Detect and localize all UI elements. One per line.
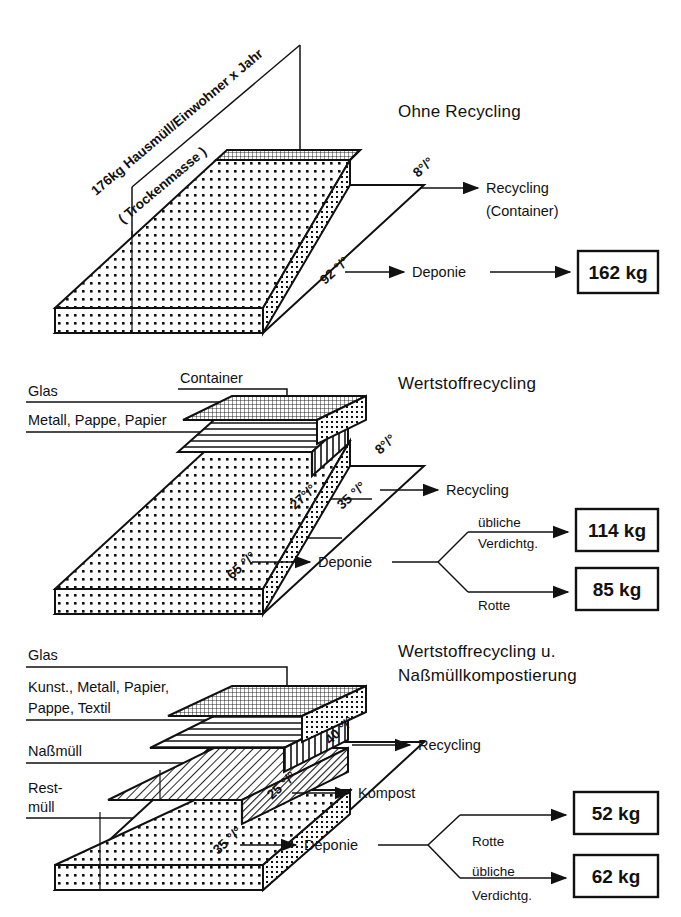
block-cap-p1	[216, 150, 360, 160]
via-label-62-line2: Verdichtg.	[472, 888, 532, 903]
layer-label-restmuell-p3-line2: müll	[28, 799, 55, 815]
result-value-62: 62 kg	[592, 866, 641, 887]
via-label-52-line1: Rotte	[472, 834, 504, 849]
panel-wertstoffrecycling: Wertstoffrecycling Glas Metall, Pappe, P…	[26, 370, 658, 614]
via-label-114-line2: Verdichtg.	[478, 536, 538, 551]
block-front-p3	[55, 865, 263, 890]
flow-deponie-label-p2: Deponie	[318, 554, 372, 570]
panel-2-title: Wertstoffrecycling	[398, 374, 536, 393]
block-front-p2	[55, 589, 263, 614]
layer-label-glas-p2: Glas	[28, 383, 58, 399]
layer-label-kunst-p3-line2: Pappe, Textil	[28, 700, 111, 716]
panel-3-title-line2: Naßmüllkompostierung	[398, 666, 577, 685]
flow-recycling-label-p3: Recycling	[418, 737, 481, 753]
panel-ohne-recycling: Ohne Recycling 176kg Hausmüll/Einwohner …	[55, 45, 658, 333]
layer-label-restmuell-p3-line1: Rest-	[28, 780, 63, 796]
pct-8-p2: 8°/°	[372, 431, 398, 457]
pct-8-p1: 8°/°	[410, 154, 436, 180]
result-box-114: 114 kg	[576, 509, 658, 551]
result-box-62: 62 kg	[574, 855, 658, 897]
result-value-162: 162 kg	[588, 262, 647, 283]
via-label-85-line1: Rotte	[478, 598, 510, 613]
flow-kompost-label-p3: Kompost	[358, 785, 415, 801]
layer-label-nassmuell-p3: Naßmüll	[28, 743, 82, 759]
flow-recycling-sublabel-p1: (Container)	[486, 203, 559, 219]
via-label-114-line1: übliche	[478, 515, 521, 530]
layer-label-metall-p2: Metall, Pappe, Papier	[28, 412, 167, 428]
result-box-52: 52 kg	[574, 792, 658, 834]
result-box-162: 162 kg	[578, 251, 658, 293]
result-value-52: 52 kg	[592, 803, 641, 824]
callout-container-p2: Container	[180, 370, 243, 386]
layer-label-glas-p3: Glas	[28, 647, 58, 663]
flow-deponie-label-p3: Deponie	[304, 837, 358, 853]
result-box-85: 85 kg	[576, 568, 658, 610]
block-front-p1	[55, 308, 263, 333]
diagram-canvas: Ohne Recycling 176kg Hausmüll/Einwohner …	[0, 0, 681, 917]
panel-1-title: Ohne Recycling	[398, 102, 521, 121]
flow-recycling-label-p2: Recycling	[446, 482, 509, 498]
panel-3-title-line1: Wertstoffrecycling u.	[398, 642, 556, 661]
flow-recycling-label-p1: Recycling	[486, 180, 549, 196]
result-value-85: 85 kg	[593, 579, 642, 600]
panel-kompostierung: Wertstoffrecycling u. Naßmüllkompostieru…	[26, 642, 658, 903]
via-label-62-line1: übliche	[472, 864, 515, 879]
flow-deponie-label-p1: Deponie	[412, 264, 466, 280]
layer-label-kunst-p3-line1: Kunst., Metall, Papier,	[28, 679, 169, 695]
result-value-114: 114 kg	[588, 520, 646, 541]
